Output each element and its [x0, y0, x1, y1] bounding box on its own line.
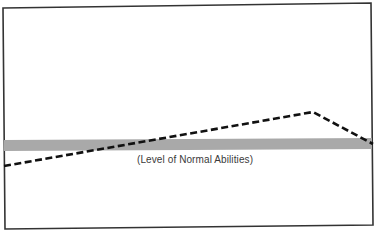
band-label: (Level of Normal Abilities) — [137, 154, 253, 165]
abilities-diagram — [0, 0, 375, 231]
frame-border — [3, 3, 373, 229]
normal-level-band — [4, 138, 372, 151]
